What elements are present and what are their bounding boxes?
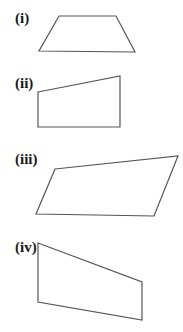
trapezium-shape-i [39, 16, 135, 52]
right-trapezium-shape-ii [38, 76, 120, 127]
figure-label-i: (i) [15, 10, 29, 27]
figure-ii: (ii) [15, 75, 120, 127]
figure-iv: (iv) [15, 239, 142, 320]
figure-label-iv: (iv) [15, 239, 37, 256]
quadrilateral-shape-iii [36, 156, 178, 216]
figure-label-ii: (ii) [15, 75, 33, 92]
trapezium-shape-iv [38, 243, 142, 320]
figure-canvas: (i) (ii) (iii) (iv) [0, 0, 183, 332]
figure-iii: (iii) [15, 151, 178, 216]
figure-i: (i) [15, 10, 135, 52]
figure-label-iii: (iii) [15, 151, 38, 168]
